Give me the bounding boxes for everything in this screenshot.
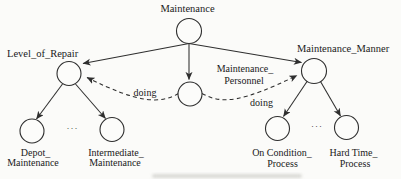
node-depot-maintenance-circle: [20, 119, 44, 143]
personnel-label-line1: Maintenance_: [217, 63, 275, 74]
level-of-repair-label: Level_of_Repair: [7, 48, 79, 59]
node-on-condition-circle: [266, 117, 290, 141]
edge-maintenance-to-maintenance-manner: [189, 44, 302, 63]
intermediate-label-line2: Maintenance: [89, 157, 141, 168]
node-maintenance-manner-circle: [302, 59, 327, 84]
maintenance-ontology-figure: Maintenance Level_of_Repair Maintenance_…: [0, 0, 401, 179]
node-maintenance-personnel-circle: [178, 82, 202, 106]
cropped-caption-remnant: [152, 174, 302, 178]
depot-label-line2: Maintenance: [7, 157, 59, 168]
on-condition-label-line2: Process: [267, 158, 298, 169]
node-level-of-repair-circle: [57, 62, 81, 86]
hard-time-label-line2: Process: [340, 158, 371, 169]
node-maintenance-circle: [177, 19, 202, 44]
ellipsis-right: ···: [311, 121, 323, 131]
maintenance-label: Maintenance: [160, 3, 215, 14]
edge-level-to-intermediate: [76, 84, 106, 119]
hard-time-label-line1: Hard Time_: [329, 147, 378, 158]
edge-maintenance-to-level-of-repair: [83, 44, 189, 64]
diagram-canvas: Maintenance Level_of_Repair Maintenance_…: [0, 0, 401, 179]
personnel-label-line2: Personnel: [224, 75, 264, 86]
edge-manner-to-on-condition: [284, 82, 308, 117]
on-condition-label-line1: On Condition_: [252, 147, 313, 158]
ellipsis-left: ···: [67, 123, 79, 133]
doing-right-edge-label: doing: [250, 97, 273, 108]
edge-level-to-depot: [37, 84, 63, 119]
node-hard-time-circle: [335, 116, 359, 140]
node-intermediate-maintenance-circle: [100, 118, 124, 142]
edge-manner-to-hard-time: [321, 82, 341, 117]
doing-left-edge-label: doing: [134, 87, 157, 98]
maintenance-manner-label: Maintenance_Manner: [297, 43, 390, 54]
